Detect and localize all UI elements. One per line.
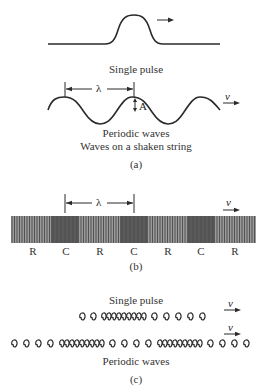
slinky-periodic-coil — [12, 340, 249, 347]
panel-label-c: (c) — [116, 373, 156, 385]
velocity-label-c-pulse: v — [228, 297, 233, 309]
wave-caption-c: Periodic waves — [86, 355, 186, 367]
slinky-pulse-coil — [80, 313, 205, 320]
velocity-label-c-wave: v — [228, 321, 233, 333]
